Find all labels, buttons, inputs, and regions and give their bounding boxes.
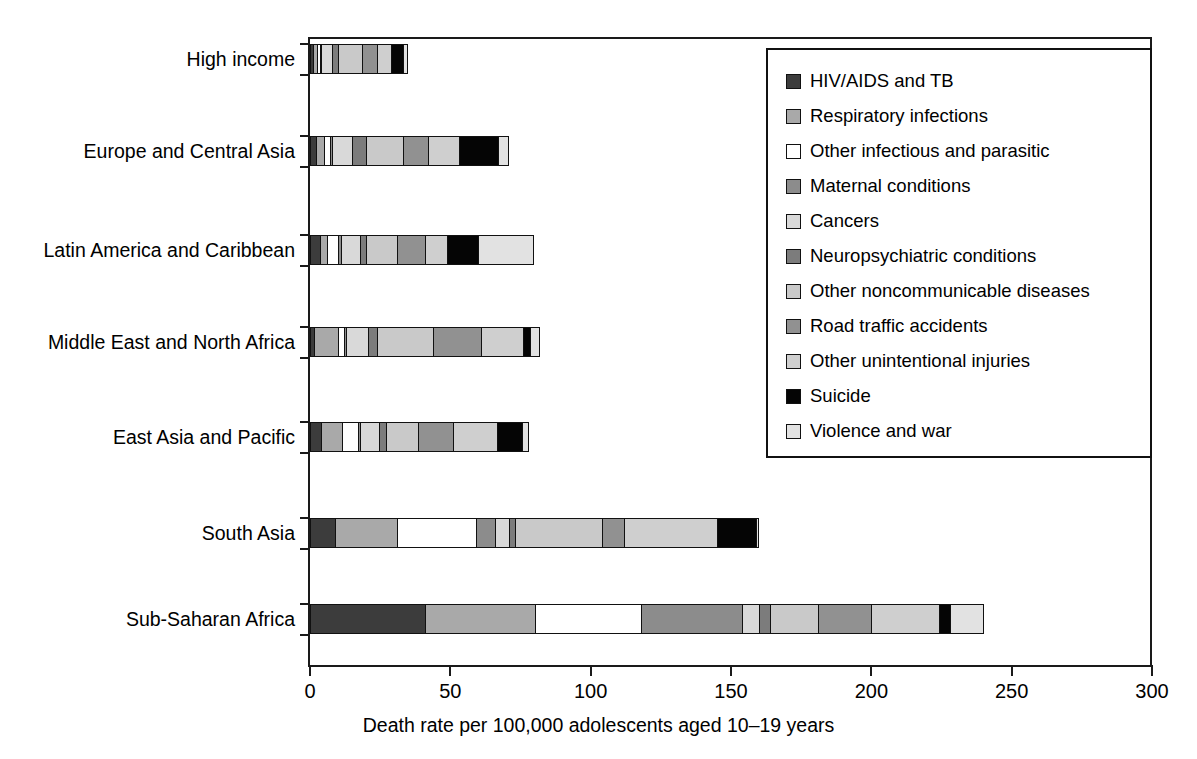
bar-segment[interactable] <box>433 327 481 357</box>
bar-segment[interactable] <box>641 604 742 634</box>
bar-segment[interactable] <box>939 604 950 634</box>
legend-item[interactable]: Maternal conditions <box>786 169 1150 204</box>
legend-item[interactable]: Violence and war <box>786 414 1150 449</box>
bar-segment[interactable] <box>377 327 433 357</box>
bar-segment[interactable] <box>530 327 540 357</box>
legend-label: Neuropsychiatric conditions <box>810 247 1036 266</box>
bar-segment[interactable] <box>314 327 338 357</box>
chart-legend: HIV/AIDS and TBRespiratory infectionsOth… <box>766 48 1152 458</box>
x-axis-tick <box>1151 665 1153 676</box>
bar-segment[interactable] <box>871 604 938 634</box>
bar-segment[interactable] <box>403 44 409 74</box>
x-axis-tick <box>590 665 592 676</box>
bar-segment[interactable] <box>418 422 453 452</box>
category-label: East Asia and Pacific <box>113 415 295 459</box>
bar-segment[interactable] <box>397 235 425 265</box>
bar-segment[interactable] <box>425 604 534 634</box>
bar-segment[interactable] <box>498 136 509 166</box>
bar-segment[interactable] <box>379 422 386 452</box>
legend-item[interactable]: Suicide <box>786 379 1150 414</box>
stacked-bar[interactable] <box>310 136 509 166</box>
bar-segment[interactable] <box>391 44 402 74</box>
bar-segment[interactable] <box>818 604 871 634</box>
bar-segment[interactable] <box>335 518 397 548</box>
bar-segment[interactable] <box>624 518 717 548</box>
x-axis-tick <box>870 665 872 676</box>
x-axis-tick-label: 300 <box>1112 680 1192 703</box>
legend-swatch-icon <box>786 389 801 404</box>
bar-segment[interactable] <box>366 136 402 166</box>
bar-segment[interactable] <box>321 422 342 452</box>
legend-item[interactable]: HIV/AIDS and TB <box>786 64 1150 99</box>
bar-segment[interactable] <box>425 235 447 265</box>
bar-segment[interactable] <box>770 604 818 634</box>
stacked-bar[interactable] <box>310 235 534 265</box>
legend-item[interactable]: Other infectious and parasitic <box>786 134 1150 169</box>
bar-segment[interactable] <box>386 422 418 452</box>
bar-segment[interactable] <box>522 422 529 452</box>
bar-segment[interactable] <box>403 136 428 166</box>
bar-segment[interactable] <box>360 422 378 452</box>
bar-segment[interactable] <box>366 235 397 265</box>
bar-segment[interactable] <box>368 327 378 357</box>
legend-swatch-icon <box>786 214 801 229</box>
legend-item[interactable]: Cancers <box>786 204 1150 239</box>
stacked-bar[interactable] <box>310 44 408 74</box>
bar-segment[interactable] <box>476 518 496 548</box>
bar-segment[interactable] <box>362 44 377 74</box>
bar-segment[interactable] <box>377 44 391 74</box>
bar-segment[interactable] <box>481 327 523 357</box>
bar-segment[interactable] <box>332 136 352 166</box>
y-axis-tick <box>300 517 310 519</box>
bar-segment[interactable] <box>310 422 321 452</box>
stacked-bar[interactable] <box>310 518 759 548</box>
stacked-bar[interactable] <box>310 422 529 452</box>
y-axis-tick <box>300 548 310 550</box>
bar-segment[interactable] <box>717 518 756 548</box>
bar-segment[interactable] <box>346 327 367 357</box>
bar-segment[interactable] <box>523 327 530 357</box>
bar-segment[interactable] <box>352 136 366 166</box>
bar-segment[interactable] <box>397 518 476 548</box>
x-axis-tick-label: 150 <box>691 680 771 703</box>
bar-segment[interactable] <box>950 604 984 634</box>
bar-segment[interactable] <box>759 604 770 634</box>
bar-segment[interactable] <box>602 518 624 548</box>
x-axis-tick-label: 250 <box>972 680 1052 703</box>
bar-segment[interactable] <box>341 235 361 265</box>
legend-item[interactable]: Road traffic accidents <box>786 309 1150 344</box>
bar-segment[interactable] <box>310 518 335 548</box>
legend-swatch-icon <box>786 144 801 159</box>
bar-segment[interactable] <box>497 422 522 452</box>
category-label: High income <box>187 37 295 81</box>
legend-item[interactable]: Neuropsychiatric conditions <box>786 239 1150 274</box>
bar-segment[interactable] <box>342 422 357 452</box>
bar-segment[interactable] <box>310 235 320 265</box>
stacked-bar[interactable] <box>310 604 984 634</box>
bar-segment[interactable] <box>515 518 602 548</box>
bar-segment[interactable] <box>756 518 759 548</box>
bar-segment[interactable] <box>459 136 498 166</box>
legend-label: Maternal conditions <box>810 177 970 196</box>
legend-label: Other noncommunicable diseases <box>810 282 1090 301</box>
legend-item[interactable]: Other noncommunicable diseases <box>786 274 1150 309</box>
bar-segment[interactable] <box>310 604 425 634</box>
legend-item[interactable]: Other unintentional injuries <box>786 344 1150 379</box>
bar-segment[interactable] <box>320 235 327 265</box>
bar-segment[interactable] <box>535 604 642 634</box>
stacked-bar[interactable] <box>310 327 540 357</box>
bar-segment[interactable] <box>495 518 509 548</box>
bar-row: Sub-Saharan Africa <box>0 597 1197 641</box>
bar-segment[interactable] <box>742 604 759 634</box>
bar-segment[interactable] <box>321 44 332 74</box>
x-axis-tick-label: 200 <box>831 680 911 703</box>
bar-segment[interactable] <box>316 136 324 166</box>
bar-segment[interactable] <box>447 235 478 265</box>
bar-segment[interactable] <box>453 422 497 452</box>
bar-segment[interactable] <box>327 235 338 265</box>
bar-segment[interactable] <box>338 44 362 74</box>
legend-swatch-icon <box>786 109 801 124</box>
bar-segment[interactable] <box>428 136 459 166</box>
bar-segment[interactable] <box>478 235 534 265</box>
legend-item[interactable]: Respiratory infections <box>786 99 1150 134</box>
